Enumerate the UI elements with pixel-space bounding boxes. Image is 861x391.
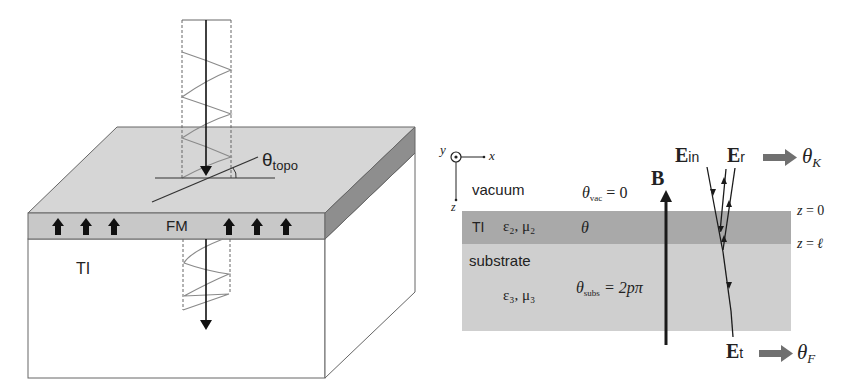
reflected-field-label: Er — [727, 145, 745, 165]
vacuum-label: vacuum — [472, 182, 525, 197]
theta-subs-label: θsubs = 2pπ — [576, 280, 643, 298]
right-diagram-graphics — [0, 0, 861, 391]
magnetic-field-arrowhead-icon — [660, 190, 672, 202]
kerr-angle-label: θK — [802, 146, 821, 169]
ti-eps-mu-label: ε₂, μ₂ — [503, 219, 535, 234]
faraday-angle-label: θF — [797, 342, 815, 365]
substrate-label: substrate — [469, 253, 531, 268]
z-axis-label: z — [451, 201, 456, 213]
magnetic-field-label: B — [651, 168, 664, 188]
figure-canvas: θtopo FM TI y x z vacuum TI ε₂, μ₂ subst… — [0, 0, 861, 391]
theta-vac-label: θvac = 0 — [582, 185, 627, 203]
substrate-eps-mu-label: ε₃, μ₃ — [503, 288, 535, 303]
theta-topo-label: θtopo — [262, 150, 298, 172]
ti-bulk-label: TI — [76, 261, 90, 277]
interface-z0-label: z = 0 — [797, 204, 824, 218]
x-axis-label: x — [489, 149, 495, 162]
fm-layer-label: FM — [166, 218, 188, 233]
incident-field-label: Ein — [675, 145, 699, 165]
y-axis-label: y — [440, 143, 446, 156]
kerr-arrow-icon — [763, 149, 797, 166]
transmitted-field-label: Et — [726, 341, 743, 361]
ti-film-label: TI — [472, 220, 484, 234]
theta-ti-label: θ — [581, 220, 589, 236]
x-axis-arrow-icon — [483, 156, 486, 159]
faraday-arrow-icon — [759, 345, 793, 362]
interface-zl-label: z = ℓ — [797, 237, 823, 251]
